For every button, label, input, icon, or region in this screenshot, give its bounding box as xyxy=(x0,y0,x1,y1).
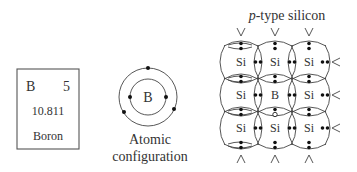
electron-icon xyxy=(254,60,258,64)
electron-icon xyxy=(321,60,325,64)
electron-icon xyxy=(259,60,263,64)
electron-icon xyxy=(307,141,311,145)
electron-icon xyxy=(326,60,330,64)
electron-icon xyxy=(273,42,277,46)
electron-icon xyxy=(321,126,325,130)
lattice-title-rest: -type silicon xyxy=(256,8,326,23)
silicon-atom-label: Si xyxy=(236,121,247,135)
atomic-configuration: B Atomic configuration xyxy=(112,66,187,164)
silicon-atom-label: Si xyxy=(304,55,315,69)
silicon-atom-label: Si xyxy=(304,88,315,102)
boron-atom-label: B xyxy=(271,88,279,102)
electron-icon xyxy=(307,47,311,51)
electron-icon xyxy=(254,126,258,130)
element-card: B 5 10.811 Boron xyxy=(17,69,79,149)
electron-icon xyxy=(239,108,243,112)
electron-icon xyxy=(239,146,243,150)
element-name: Boron xyxy=(33,129,63,143)
lattice-title: p-type silicon xyxy=(248,8,326,23)
caption-line-2: configuration xyxy=(112,149,187,164)
electron-icon xyxy=(288,60,292,64)
silicon-atom-label: Si xyxy=(304,121,315,135)
electron-icon xyxy=(293,60,297,64)
p-type-silicon-lattice: SiSiSiSiBSiSiSiSi xyxy=(220,28,340,163)
electron-icon xyxy=(326,93,330,97)
electron-icon xyxy=(293,126,297,130)
lattice-title-italic: p xyxy=(248,8,256,23)
electron-icon xyxy=(307,75,311,79)
electron-icon xyxy=(288,93,292,97)
silicon-atom-label: Si xyxy=(270,121,281,135)
atomic-number: 5 xyxy=(63,79,70,94)
hole-icon xyxy=(273,112,277,116)
caption-line-1: Atomic xyxy=(129,132,171,147)
electron-icon xyxy=(146,66,150,70)
electron-icon xyxy=(273,141,277,145)
element-symbol: B xyxy=(26,79,35,94)
electron-icon xyxy=(259,126,263,130)
electron-icon xyxy=(164,95,168,99)
silicon-atom-label: Si xyxy=(236,88,247,102)
electron-icon xyxy=(273,80,277,84)
electron-icon xyxy=(307,113,311,117)
electron-icon xyxy=(128,95,132,99)
electron-icon xyxy=(273,75,277,79)
electron-icon xyxy=(307,42,311,46)
electron-icon xyxy=(239,47,243,51)
atomic-mass: 10.811 xyxy=(32,104,65,118)
nucleus-label: B xyxy=(143,90,152,105)
electron-icon xyxy=(273,47,277,51)
electron-icon xyxy=(172,107,176,111)
silicon-atom-label: Si xyxy=(236,55,247,69)
electron-icon xyxy=(239,80,243,84)
electron-icon xyxy=(239,75,243,79)
electron-icon xyxy=(239,113,243,117)
electron-icon xyxy=(273,108,277,112)
bond-tail xyxy=(332,91,340,99)
bond-tail xyxy=(332,58,340,66)
electron-icon xyxy=(293,93,297,97)
electron-icon xyxy=(273,146,277,150)
electron-icon xyxy=(254,93,258,97)
electron-icon xyxy=(307,108,311,112)
electron-icon xyxy=(307,80,311,84)
boron-doping-diagram: B 5 10.811 Boron B Atomic configuration … xyxy=(0,0,357,172)
electron-icon xyxy=(259,93,263,97)
electron-icon xyxy=(239,141,243,145)
electron-icon xyxy=(288,126,292,130)
silicon-atom-label: Si xyxy=(270,55,281,69)
electron-icon xyxy=(326,126,330,130)
electron-icon xyxy=(239,42,243,46)
electron-icon xyxy=(122,110,126,114)
electron-icon xyxy=(321,93,325,97)
bond-tail xyxy=(332,124,340,132)
electron-icon xyxy=(307,146,311,150)
